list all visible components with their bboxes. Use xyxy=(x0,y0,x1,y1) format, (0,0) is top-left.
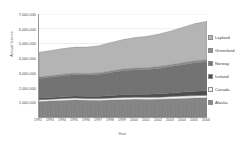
legend-swatch-icon xyxy=(208,87,213,92)
x-axis-title: Year xyxy=(38,131,206,136)
x-axis-tick-label: 1997 xyxy=(94,118,102,122)
legend-swatch-icon xyxy=(208,48,213,53)
legend-item-label: Greenland xyxy=(215,48,235,53)
x-axis-tick-label: 2005 xyxy=(190,118,198,122)
legend-item-iceland[interactable]: Iceland xyxy=(208,70,248,83)
legend-item-lapland[interactable]: Lapland xyxy=(208,31,248,44)
y-axis-tick-label: 7,000,000 xyxy=(4,12,36,17)
legend-swatch-icon xyxy=(208,100,213,105)
y-axis-tick-label: 6,000,000 xyxy=(4,26,36,31)
y-axis-tick-label: 1,000,000 xyxy=(4,100,36,105)
plot-area xyxy=(38,14,207,118)
y-axis-tick-labels: 7,000,0006,000,0005,000,0004,000,0003,00… xyxy=(2,0,36,145)
legend-swatch-icon xyxy=(208,35,213,40)
x-axis-tick-label: 2001 xyxy=(142,118,150,122)
legend-swatch-icon xyxy=(208,61,213,66)
legend: LaplandGreenlandNorwayIcelandCanadaAlask… xyxy=(208,31,248,109)
area-series-group xyxy=(39,14,207,117)
x-axis-tick-label: 2004 xyxy=(178,118,186,122)
x-axis-tick-label: 1993 xyxy=(46,118,54,122)
legend-item-norway[interactable]: Norway xyxy=(208,57,248,70)
x-axis-tick-label: 1996 xyxy=(82,118,90,122)
x-axis-tick-label: 1998 xyxy=(106,118,114,122)
x-axis-tick-label: 1994 xyxy=(58,118,66,122)
stacked-areas xyxy=(39,21,207,117)
x-axis-tick-label: 2006 xyxy=(202,118,210,122)
legend-swatch-icon xyxy=(208,74,213,79)
legend-item-greenland[interactable]: Greenland xyxy=(208,44,248,57)
legend-item-label: Iceland xyxy=(215,74,229,79)
x-axis-tick-label: 2003 xyxy=(166,118,174,122)
x-axis-tick-labels: 1992199319941995199619971998199920002001… xyxy=(38,118,206,128)
legend-item-label: Canada xyxy=(215,87,230,92)
legend-item-label: Alaska xyxy=(215,100,228,105)
y-axis-tick-label: 5,000,000 xyxy=(4,41,36,46)
legend-item-canada[interactable]: Canada xyxy=(208,83,248,96)
legend-item-alaska[interactable]: Alaska xyxy=(208,96,248,109)
stacked-area-chart: Annual Visitors 7,000,0006,000,0005,000,… xyxy=(0,0,248,145)
y-axis-tick-label: 3,000,000 xyxy=(4,70,36,75)
x-axis-tick-label: 1992 xyxy=(34,118,42,122)
x-axis-tick-label: 2000 xyxy=(130,118,138,122)
x-axis-tick-label: 1999 xyxy=(118,118,126,122)
x-axis-tick-label: 1995 xyxy=(70,118,78,122)
y-axis-tick-label: 4,000,000 xyxy=(4,56,36,61)
legend-item-label: Norway xyxy=(215,61,229,66)
x-axis-tick-label: 2002 xyxy=(154,118,162,122)
area-series-alaska xyxy=(39,98,207,117)
y-axis-tick-label: 2,000,000 xyxy=(4,85,36,90)
legend-item-label: Lapland xyxy=(215,35,230,40)
